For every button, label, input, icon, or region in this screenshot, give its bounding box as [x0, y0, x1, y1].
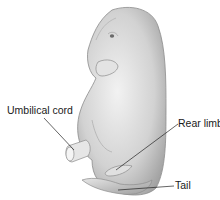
- label-tail: Tail: [175, 180, 191, 191]
- label-umbilical-cord: Umbilical cord: [7, 105, 73, 116]
- label-rear-limb: Rear limb: [178, 118, 220, 129]
- eye: [110, 34, 114, 38]
- umbilical-cord-leader: [44, 118, 74, 150]
- embryo-illustration: [0, 0, 220, 200]
